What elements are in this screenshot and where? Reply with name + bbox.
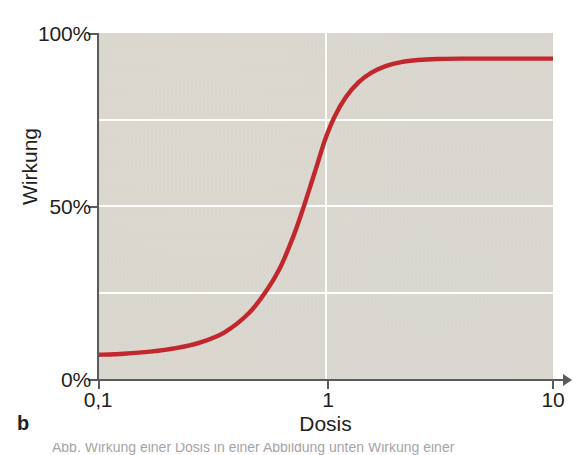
x-axis-line <box>97 379 567 381</box>
clipped-caption-strip: Abb. Wirkung einer Dosis in einer Abbild… <box>0 443 587 455</box>
x-axis-arrowhead <box>563 374 572 386</box>
dose-response-curve <box>98 33 553 379</box>
x-axis-title: Dosis <box>98 413 553 435</box>
plot-area <box>98 33 553 379</box>
x-tick-label-10: 10 <box>523 389 583 410</box>
panel-label: b <box>17 412 29 434</box>
curve-path <box>98 59 553 355</box>
x-tick-label-1: 1 <box>298 389 358 410</box>
figure-panel-b: 100% 50% 0% 0,1 1 10 Wirkung Dosis b Abb… <box>0 0 587 455</box>
y-tick-label-100: 100% <box>38 23 91 44</box>
y-tick-label-50: 50% <box>50 196 91 217</box>
x-tick-label-0.1: 0,1 <box>68 389 128 410</box>
y-axis-title: Wirkung <box>19 183 41 205</box>
clipped-caption-text: Abb. Wirkung einer Dosis in einer Abbild… <box>52 443 454 455</box>
y-tick-label-0: 0% <box>61 369 91 390</box>
